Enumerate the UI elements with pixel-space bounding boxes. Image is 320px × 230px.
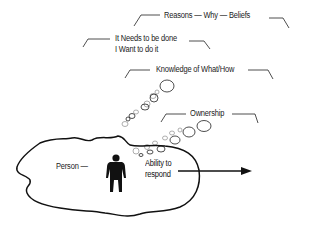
label-reasons-why-beliefs: Reasons — Why — Beliefs [164,10,250,20]
label-ability-to: Ability to [145,158,172,168]
label-needs-to-be-done: It Needs to be done [115,33,177,43]
thought-bubbles-lower [133,121,211,157]
person-silhouette-icon [106,154,126,192]
label-person: Person — [56,161,88,171]
label-respond: respond [145,169,171,179]
label-ownership: Ownership [190,108,224,118]
label-knowledge: Knowledge of What/How [156,64,234,74]
thought-bubbles-upper [122,80,174,127]
response-arrow [178,167,252,175]
label-want-to-do-it: I Want to do it [115,44,158,54]
